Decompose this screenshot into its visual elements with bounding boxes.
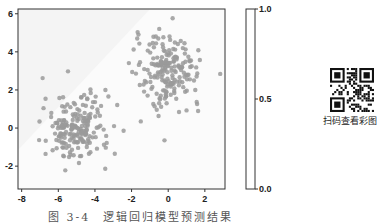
svg-text:0: 0 — [8, 123, 13, 133]
svg-text:0.5: 0.5 — [259, 94, 272, 104]
svg-text:-6: -6 — [54, 194, 62, 204]
colorbar — [246, 9, 255, 189]
svg-text:-2: -2 — [5, 161, 13, 171]
colorbar-ticks: 0.00.51.0 — [255, 4, 272, 194]
svg-text:-4: -4 — [91, 194, 99, 204]
x-axis-ticks: -8-6-4-202 — [18, 189, 208, 204]
qr-code-icon — [330, 68, 374, 112]
svg-text:4: 4 — [8, 47, 13, 57]
svg-text:2: 2 — [202, 194, 207, 204]
scatter-chart: -8-6-4-202 -20246 0.00.51.0 — [0, 0, 384, 224]
figure-caption: 图 3-4 逻辑回归模型预测结果 — [48, 208, 233, 224]
qr-label: 扫码查看彩图 — [323, 114, 377, 127]
y-axis-ticks: -20246 — [5, 9, 18, 171]
svg-text:-8: -8 — [18, 194, 26, 204]
svg-text:6: 6 — [8, 9, 13, 19]
svg-text:2: 2 — [8, 85, 13, 95]
svg-text:1.0: 1.0 — [259, 4, 272, 14]
svg-text:0.0: 0.0 — [259, 184, 272, 194]
svg-text:-2: -2 — [128, 194, 136, 204]
svg-text:0: 0 — [166, 194, 171, 204]
